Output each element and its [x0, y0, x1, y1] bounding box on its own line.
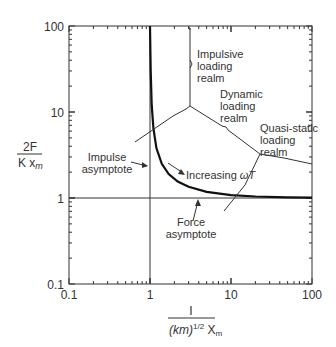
- increasing-omega-t-label: Increasing ωT: [186, 169, 256, 181]
- impulse-asymptote-label: Impulse asymptote: [82, 151, 133, 175]
- svg-text:realm: realm: [260, 146, 288, 158]
- y-label-denominator: K xm: [18, 156, 43, 171]
- quasi-static-realm-label: Quasi-static loading realm: [260, 122, 319, 158]
- force-arrowhead: [195, 199, 201, 206]
- impulse-arrowhead: [142, 162, 148, 168]
- x-tick-100: 100: [302, 288, 322, 302]
- svg-text:Quasi-static: Quasi-static: [260, 122, 319, 134]
- chart: 0.1 1 10 100 0.1 1 10 100 2F K xm I (km)…: [0, 0, 336, 347]
- y-tick-1: 1: [57, 192, 64, 206]
- svg-text:Force: Force: [177, 216, 205, 228]
- svg-text:Dynamic: Dynamic: [220, 88, 263, 100]
- svg-text:loading: loading: [260, 134, 295, 146]
- svg-text:realm: realm: [220, 112, 248, 124]
- svg-text:asymptote: asymptote: [166, 228, 217, 240]
- svg-text:realm: realm: [197, 72, 225, 84]
- svg-text:loading: loading: [220, 100, 255, 112]
- y-tick-100: 100: [44, 20, 64, 34]
- y-tick-10: 10: [51, 106, 65, 120]
- svg-text:Impulse: Impulse: [88, 151, 127, 163]
- boundary-quasi-lower: [224, 154, 260, 211]
- x-tick-1: 1: [147, 288, 154, 302]
- plot-svg: 0.1 1 10 100 0.1 1 10 100 2F K xm I (km)…: [0, 0, 336, 347]
- svg-text:Impulsive: Impulsive: [197, 48, 243, 60]
- boundary-impulsive-dynamic: [135, 106, 190, 142]
- y-tick-0.1: 0.1: [47, 278, 64, 292]
- y-label-numerator: 2F: [23, 140, 37, 154]
- svg-text:loading: loading: [197, 60, 232, 72]
- force-asymptote-label: Force asymptote: [166, 216, 217, 240]
- impulsive-realm-label: Impulsive loading realm: [197, 48, 243, 84]
- svg-text:asymptote: asymptote: [82, 163, 133, 175]
- x-label-numerator: I: [189, 304, 192, 318]
- x-label-denominator: (km)1/2 Xm: [169, 322, 222, 338]
- dynamic-realm-label: Dynamic loading realm: [220, 88, 263, 124]
- x-tick-10: 10: [224, 288, 238, 302]
